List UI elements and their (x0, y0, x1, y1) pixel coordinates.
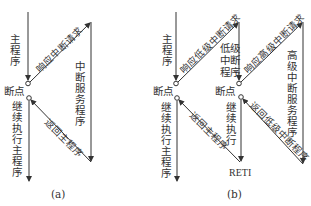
main-program-label: 主程序 (8, 34, 20, 67)
breakpoint-label: 断点 (4, 85, 24, 97)
low-program-label-line2: 中断 (220, 54, 241, 66)
reti-label: RETI (229, 167, 251, 178)
return-point-circle (27, 96, 32, 101)
breakpoint-main-label: 断点 (153, 85, 173, 97)
breakpoint-circle (26, 81, 31, 86)
caption-a: (a) (51, 188, 65, 200)
main-program-label: 主程序 (160, 34, 172, 67)
low-program-label-line3: 程序 (220, 66, 240, 78)
interrupt-service-label: 中断服务程序 (73, 60, 85, 127)
panel-a: 主程序 断点 响应中断请求 中断服务程序 返回主程序 继续执行主程序 (a) (4, 12, 91, 200)
low-program-label-line1: 低级 (220, 42, 241, 54)
respond-high-label: 响应高级中断请求 (242, 12, 307, 75)
return-low-circle (239, 95, 244, 100)
continue-main-label: 继续执行主程序 (10, 100, 22, 178)
breakpoint-low-label: 断点 (215, 85, 235, 97)
panel-b: 主程序 断点 响应低级中断请求 低级中断程序 低级 中断 程序 断点 响应高级中… (153, 12, 311, 200)
return-main-circle (175, 96, 180, 101)
return-low-label: 返回低级中断程序 (248, 100, 311, 164)
breakpoint-main-circle (174, 81, 179, 86)
caption-b: (b) (227, 188, 242, 200)
interrupt-nesting-diagram: 主程序 断点 响应中断请求 中断服务程序 返回主程序 继续执行主程序 (a) 主… (0, 0, 311, 206)
continue-main-label: 继续执行主程序 (159, 101, 171, 179)
high-service-label: 高级中断服务程序 (285, 49, 297, 138)
breakpoint-low-circle (237, 81, 242, 86)
